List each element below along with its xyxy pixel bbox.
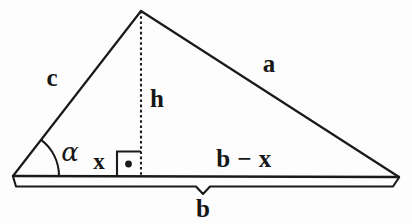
triangle-diagram: c a h α x b − x b: [0, 0, 412, 224]
diagram-canvas: [0, 0, 412, 224]
label-segment-x: x: [93, 150, 105, 173]
label-angle-alpha: α: [61, 139, 79, 165]
right-angle-dot-icon: [125, 161, 132, 168]
label-height-h: h: [150, 86, 164, 111]
label-base-b: b: [196, 196, 210, 221]
label-segment-b-minus-x: b − x: [216, 146, 272, 171]
base-b-line: [13, 176, 399, 177]
label-side-a: a: [263, 51, 276, 76]
angle-arc-icon: [42, 140, 60, 176]
label-side-c: c: [46, 65, 57, 90]
measure-brace-icon: [13, 177, 399, 195]
